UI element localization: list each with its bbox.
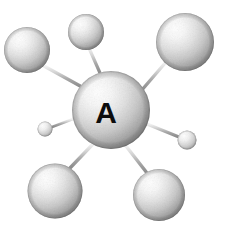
bond-center-to-left-small — [52, 119, 73, 127]
central-atom: A — [72, 71, 150, 149]
bond-center-to-right-small — [147, 124, 179, 137]
molecular-model-figure: A — [0, 0, 227, 240]
atom-left-small — [38, 122, 53, 137]
molecule-canvas: A — [0, 0, 227, 240]
bond-center-to-bottom-right — [126, 146, 147, 173]
atom-top-right — [156, 13, 214, 71]
bond-center-to-top-left — [44, 66, 82, 87]
atom-right-small — [178, 131, 197, 150]
bond-center-to-top — [89, 48, 100, 73]
atom-top-left — [4, 27, 50, 73]
bond-center-to-top-right — [141, 62, 166, 91]
atom-bottom-right — [133, 169, 185, 221]
bond-center-to-bottom-left — [70, 144, 93, 168]
atom-top — [68, 14, 104, 50]
atom-bottom-left — [28, 164, 83, 219]
central-atom-label: A — [95, 96, 117, 129]
